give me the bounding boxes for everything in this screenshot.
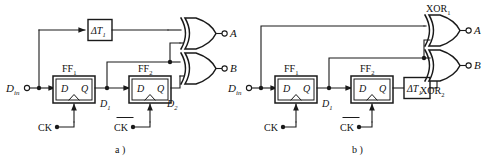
- label-ff2-d-b: D: [358, 83, 367, 94]
- wire-ck-run-a: [57, 122, 74, 127]
- label-ff1-q-b: Q: [303, 83, 311, 94]
- label-xor1-b: XOR1: [426, 3, 450, 16]
- label-ff1-b: FF1: [284, 63, 298, 76]
- label-ff1-d-a: D: [60, 83, 69, 94]
- label-ck-a: CK: [38, 122, 53, 133]
- output-label-b-a: B: [230, 62, 237, 74]
- wire-ckbar-run-a: [133, 122, 150, 127]
- output-label-b-b: B: [474, 59, 481, 71]
- label-node-d2-a: D2: [166, 98, 178, 111]
- xor-gate-2-a[interactable]: [181, 53, 227, 84]
- label-din-a: Din: [5, 82, 20, 97]
- label-ff2-b: FF2: [360, 63, 374, 76]
- label-node-d1-a: D1: [99, 98, 110, 111]
- panel-a: [24, 18, 227, 129]
- wire-d2-to-xor2-lower: [171, 76, 180, 88]
- label-ff1-d-b: D: [282, 83, 291, 94]
- label-node-d1-b: D1: [321, 98, 332, 111]
- label-xor2-b: XOR2: [420, 85, 444, 98]
- output-label-a-a: A: [229, 27, 237, 39]
- input-terminal-din-b[interactable]: [246, 85, 251, 90]
- label-ff1-a: FF1: [62, 63, 76, 76]
- label-ckbar-b: CK: [340, 122, 355, 133]
- figure-root: Din ΔT1 FF1 D Q FF2 D Q D1 D2 CK CK A B …: [0, 0, 491, 162]
- caption-a: a ): [115, 144, 125, 156]
- xor-gate-1-b[interactable]: [425, 15, 471, 46]
- label-ff2-d-a: D: [136, 83, 145, 94]
- label-ckbar-a: CK: [114, 122, 129, 133]
- label-ff2-q-a: Q: [157, 83, 165, 94]
- label-ck-b: CK: [264, 122, 279, 133]
- label-ff2-a: FF2: [138, 63, 152, 76]
- label-ff2-q-b: Q: [379, 83, 387, 94]
- label-ff1-q-a: Q: [81, 83, 89, 94]
- panel-b: [246, 15, 471, 129]
- caption-b: b ): [352, 144, 363, 156]
- input-terminal-din[interactable]: [24, 85, 29, 90]
- output-label-a-b: A: [473, 24, 481, 36]
- xor-gate-1-a[interactable]: [181, 18, 227, 49]
- label-din-b: Din: [227, 82, 242, 97]
- xor-gate-2-b[interactable]: [425, 50, 471, 81]
- wire-d1-to-xor1-lower: [170, 43, 180, 62]
- circuit-diagram-svg: Din ΔT1 FF1 D Q FF2 D Q D1 D2 CK CK A B …: [0, 0, 491, 162]
